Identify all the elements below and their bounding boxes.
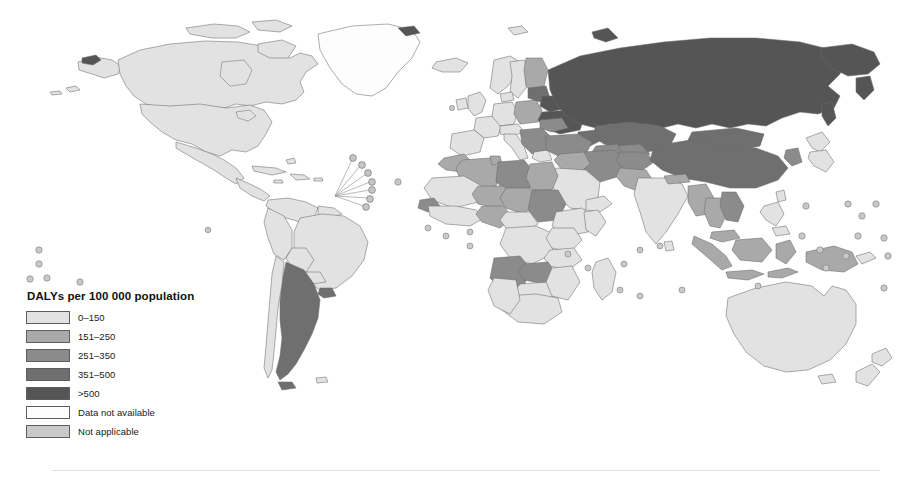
region-tasmania [818,374,836,384]
region-madagascar [592,258,616,300]
legend-item: 0–150 [26,308,194,326]
region-ireland [456,98,468,110]
region-falklands [316,377,328,383]
region-usa [140,104,272,156]
region-egypt [526,162,558,190]
region-japan-honshu [808,150,834,172]
region-java [726,270,764,280]
region-borneo [732,238,772,262]
legend-item: 151–250 [26,327,194,345]
region-novaya-zemlya [592,28,618,42]
region-new-zealand-north [872,348,892,366]
legend-item: Data not available [26,403,194,421]
legend-swatch-over-500 [26,387,70,400]
legend-label-251-350: 251–350 [78,350,115,361]
region-russia [548,38,846,128]
legend-title: DALYs per 100 000 population [27,290,194,302]
region-philippines-south [772,226,790,236]
region-aleutians-2 [50,91,62,95]
legend-swatch-151-250 [26,330,70,343]
region-puerto-rico [314,178,323,181]
region-hispaniola [290,174,310,180]
region-tierra-del-fuego [278,382,296,390]
region-nepal-bhutan [664,174,690,184]
region-sri-lanka [664,241,674,251]
region-philippines [760,202,784,226]
legend-item: 251–350 [26,346,194,364]
legend-label-data-not-available: Data not available [78,407,155,418]
legend-swatch-0-150 [26,311,70,324]
legend-swatch-not-applicable [26,425,70,438]
region-india [634,178,688,244]
region-cuba [252,166,286,175]
region-canada-arctic-isles-2 [252,20,292,32]
region-svalbard [508,26,528,35]
caribbean-leader-lines [335,155,375,211]
region-iberia [450,130,484,156]
world-map-figure: DALYs per 100 000 population 0–150 151–2… [0,0,910,493]
region-central-america [236,178,270,201]
legend-swatch-data-not-available [26,406,70,419]
region-bahamas [286,158,296,164]
region-west-africa-coast [428,206,484,226]
region-sulawesi [776,240,796,264]
region-lesser-sunda [768,268,798,278]
legend-item: Not applicable [26,422,194,440]
legend-label-351-500: 351–500 [78,369,115,380]
region-new-zealand-south [856,364,880,386]
region-new-britain [856,252,876,264]
map-legend: DALYs per 100 000 population 0–150 151–2… [26,290,194,441]
region-taiwan [776,190,786,202]
legend-label-0-150: 0–150 [78,312,105,323]
legend-item: 351–500 [26,365,194,383]
region-japan [806,132,830,152]
legend-label-151-250: 151–250 [78,331,115,342]
region-kamchatka [856,76,874,100]
legend-item: >500 [26,384,194,402]
legend-swatch-351-500 [26,368,70,381]
region-iceland [432,58,468,72]
region-canada-arctic-isles [186,24,250,38]
region-uk [468,92,486,116]
legend-label-over-500: >500 [78,388,100,399]
region-aleutians-1 [66,86,80,92]
legend-swatch-251-350 [26,349,70,362]
region-jamaica [274,180,283,183]
region-uruguay [318,288,336,298]
legend-label-not-applicable: Not applicable [78,426,139,437]
region-papua-new-guinea [806,246,858,272]
region-poland [514,100,542,124]
region-denmark [500,92,514,102]
region-korea [784,148,802,166]
scan-artifact-rule [52,470,880,471]
region-malaysia [710,230,740,242]
region-australia [726,282,856,372]
